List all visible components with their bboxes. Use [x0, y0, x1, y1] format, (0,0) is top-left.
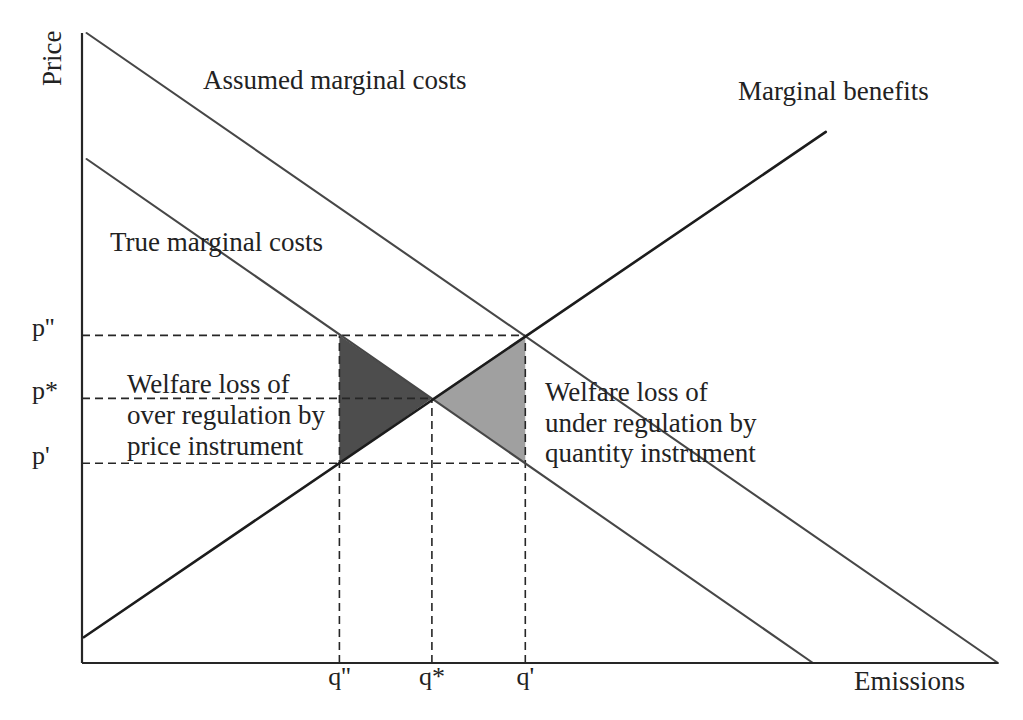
marginal-cost-benefit-chart: Price Emissions Assumed marginal costs T…: [0, 0, 1023, 720]
annotation-line: under regulation by: [545, 408, 757, 438]
y-tick-p-prime: p': [32, 441, 50, 470]
welfare-loss-of-under-regulation-by-quantity-instrument-area: [432, 335, 525, 463]
true-marginal-costs-label: True marginal costs: [110, 227, 323, 257]
x-tick-q-star: q*: [419, 662, 445, 691]
annotation-line: over regulation by: [127, 400, 325, 430]
y-axis-label: Price: [37, 31, 67, 86]
annotation-line: Welfare loss of: [127, 369, 290, 399]
y-tick-p-star: p*: [32, 376, 58, 405]
curves: [84, 33, 998, 663]
assumed-marginal-costs-label: Assumed marginal costs: [203, 65, 466, 95]
annotation-line: price instrument: [127, 431, 304, 461]
x-axis-label: Emissions: [854, 666, 965, 696]
x-tick-q-double-prime: q'': [328, 662, 350, 691]
welfare-loss-of-over-regulation-by-price-instrument-area: [339, 335, 432, 463]
under-regulation-annotation: Welfare loss of under regulation by quan…: [545, 377, 757, 468]
marginal-benefits-label: Marginal benefits: [738, 76, 929, 106]
over-regulation-annotation: Welfare loss of over regulation by price…: [127, 369, 325, 461]
annotation-line: Welfare loss of: [545, 377, 708, 407]
y-tick-p-double-prime: p'': [32, 313, 54, 342]
x-tick-q-prime: q': [516, 662, 534, 691]
annotation-line: quantity instrument: [545, 438, 756, 468]
assumed-marginal-costs-curve: [87, 33, 998, 663]
